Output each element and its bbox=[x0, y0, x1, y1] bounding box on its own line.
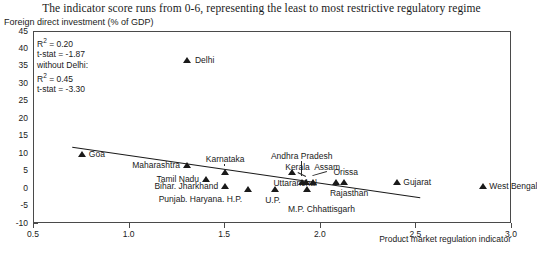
data-point-marker bbox=[183, 162, 191, 168]
plot-area: DelhiGoaMaharashtraKarnatakaTamil NaduBi… bbox=[33, 31, 511, 223]
stat-r2-without-delhi: R2 = 0.45 bbox=[37, 71, 88, 84]
y-axis-tick-label: 10 bbox=[4, 148, 28, 158]
x-axis-tick-label: 3.0 bbox=[505, 229, 517, 239]
stat-tstat-without-delhi: t-stat = -3.30 bbox=[37, 84, 88, 95]
x-axis-label: Product market regulation indicator bbox=[379, 234, 511, 244]
data-point-label: Kerala bbox=[285, 162, 310, 172]
y-axis-tick-label: -5 bbox=[4, 200, 28, 210]
data-point-marker bbox=[221, 169, 229, 175]
y-axis-tick-label: 40 bbox=[4, 43, 28, 53]
data-point-label: Andhra Pradesh bbox=[271, 151, 332, 161]
x-axis-tick-label: 0.5 bbox=[27, 229, 39, 239]
data-point-marker bbox=[221, 183, 229, 189]
data-point-label: Maharashtra bbox=[132, 160, 180, 170]
data-point-label: Delhi bbox=[195, 55, 214, 65]
data-point-marker bbox=[183, 57, 191, 63]
x-axis-tick-label: 2.5 bbox=[409, 229, 421, 239]
chart-title: The indicator score runs from 0-6, repre… bbox=[0, 0, 523, 16]
y-axis-tick-label: -10 bbox=[4, 218, 28, 228]
y-axis-tick-label: 45 bbox=[4, 26, 28, 36]
data-point-label: M.P. Chhattisgarh bbox=[288, 204, 355, 214]
stats-annotation: R2 = 0.20 t-stat = -1.87 without Delhi: … bbox=[37, 36, 88, 95]
data-point-label: West Bengal bbox=[489, 181, 537, 191]
data-point-label: U.P. bbox=[265, 195, 280, 205]
data-point-marker bbox=[393, 179, 401, 185]
y-axis-tick-label: 30 bbox=[4, 78, 28, 88]
y-axis-tick-label: 0 bbox=[4, 183, 28, 193]
y-axis-tick-label: 35 bbox=[4, 60, 28, 70]
data-point-label: Uttaranchal bbox=[273, 178, 316, 188]
data-point-label: Goa bbox=[89, 149, 105, 159]
data-point-label: Bihar. Jharkhand bbox=[154, 181, 218, 191]
x-axis-tick-label: 1.5 bbox=[218, 229, 230, 239]
x-axis-tick-label: 1.0 bbox=[123, 229, 135, 239]
y-axis-tick-label: 15 bbox=[4, 130, 28, 140]
y-axis-tick-label: 5 bbox=[4, 165, 28, 175]
data-point-label: Rajasthan bbox=[330, 188, 368, 198]
data-point-label: Gujarat bbox=[403, 177, 431, 187]
data-point-label: Orissa bbox=[333, 167, 358, 177]
data-point-marker bbox=[340, 179, 348, 185]
stat-without-delhi-note: without Delhi: bbox=[37, 60, 88, 71]
data-point-label: Punjab. Haryana. H.P. bbox=[159, 194, 242, 204]
stat-r2-all: R2 = 0.20 bbox=[37, 36, 88, 49]
y-axis-tick-label: 25 bbox=[4, 95, 28, 105]
x-axis-tick-label: 2.0 bbox=[314, 229, 326, 239]
data-point-marker bbox=[244, 186, 252, 192]
data-point-marker bbox=[479, 183, 487, 189]
data-point-label: Karnataka bbox=[206, 154, 245, 164]
y-axis-tick-label: 20 bbox=[4, 113, 28, 123]
stat-tstat-all: t-stat = -1.87 bbox=[37, 49, 88, 60]
data-point-marker bbox=[78, 151, 86, 157]
